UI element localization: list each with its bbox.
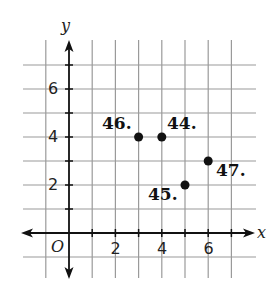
axis-ticks xyxy=(65,65,231,237)
point-44 xyxy=(157,133,166,142)
point-47 xyxy=(204,157,213,166)
point-label-45: 45. xyxy=(148,184,178,204)
origin-label: O xyxy=(51,237,64,256)
y-axis-label: y xyxy=(60,16,71,35)
y-tick-labels: 2 4 6 xyxy=(48,79,58,194)
point-label-46: 46. xyxy=(102,113,132,133)
point-label-44: 44. xyxy=(167,113,197,133)
x-tick-label: 4 xyxy=(157,239,167,258)
point-45 xyxy=(181,181,190,190)
points: 46. 44. 45. 47. xyxy=(102,113,246,204)
point-label-47: 47. xyxy=(216,160,246,180)
x-tick-label: 2 xyxy=(111,239,121,258)
y-tick-label: 6 xyxy=(48,79,58,98)
coordinate-plane: x y 2 4 6 2 4 6 O 46. xyxy=(0,0,276,293)
point-46 xyxy=(134,133,143,142)
x-tick-label: 6 xyxy=(204,239,214,258)
x-tick-labels: 2 4 6 xyxy=(111,239,214,258)
x-axis-label: x xyxy=(257,223,266,242)
y-tick-label: 2 xyxy=(48,175,58,194)
y-tick-label: 4 xyxy=(48,127,58,146)
